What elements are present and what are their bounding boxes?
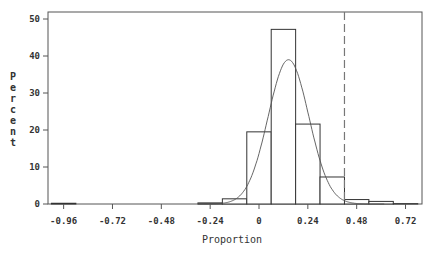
y-tick-label: 30 <box>29 88 40 98</box>
y-tick-label: 50 <box>29 14 40 24</box>
x-axis-title: Proportion <box>202 234 262 245</box>
y-tick-label: 0 <box>35 199 40 209</box>
x-tick-label: -0.24 <box>197 216 225 226</box>
x-tick-label: 0 <box>256 216 261 226</box>
x-tick-label: 0.48 <box>346 216 368 226</box>
y-axis: 01020304050 <box>29 14 48 209</box>
x-tick-label: -0.48 <box>148 216 175 226</box>
plot-border <box>48 12 422 204</box>
y-axis-title-char: e <box>10 82 16 93</box>
y-axis-title: Percent <box>10 71 16 148</box>
x-axis: -0.96-0.72-0.48-0.2400.240.480.72 <box>50 204 416 226</box>
x-tick-label: 0.72 <box>395 216 417 226</box>
histogram-bar <box>320 177 344 204</box>
y-tick-label: 20 <box>29 125 40 135</box>
y-axis-title-char: n <box>10 126 16 137</box>
plot-frame <box>48 12 422 204</box>
x-tick-label: -0.72 <box>99 216 126 226</box>
histogram-chart: -0.96-0.72-0.48-0.2400.240.480.72 010203… <box>0 0 434 257</box>
y-axis-title-char: P <box>10 71 16 82</box>
histogram-bar <box>247 132 271 204</box>
x-tick-label: -0.96 <box>50 216 77 226</box>
y-axis-title-char: t <box>10 137 16 148</box>
histogram-bar <box>296 124 320 204</box>
y-axis-title-char: c <box>10 104 16 115</box>
x-tick-label: 0.24 <box>297 216 319 226</box>
y-tick-label: 40 <box>29 51 40 61</box>
histogram-bar <box>51 203 75 204</box>
y-tick-label: 10 <box>29 162 40 172</box>
histogram-bars <box>51 29 417 204</box>
y-axis-title-char: e <box>10 115 16 126</box>
y-axis-title-char: r <box>10 93 16 104</box>
histogram-bar <box>271 29 295 204</box>
